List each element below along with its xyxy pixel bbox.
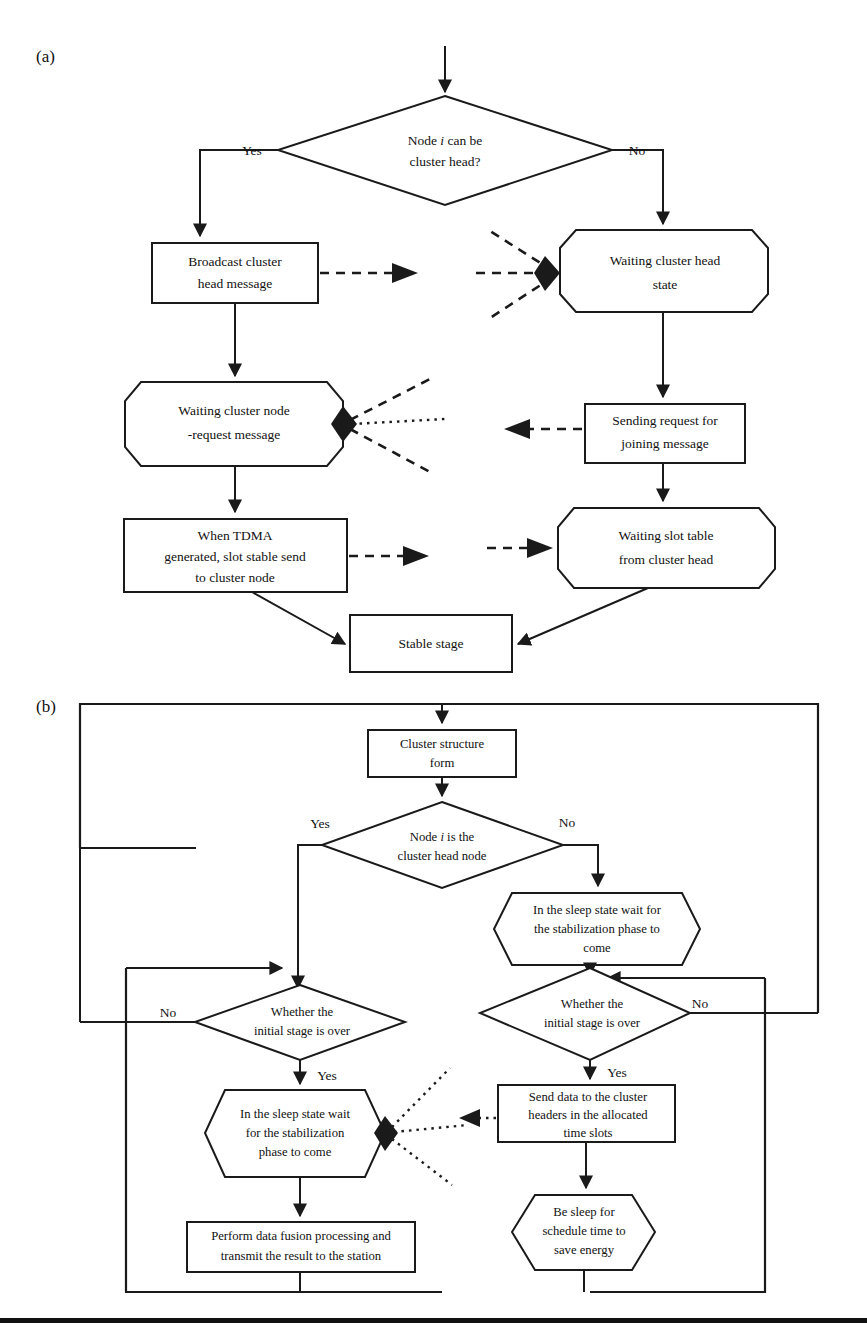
sending-request-line2: joining message [620,436,708,451]
sleep-right-line2: the stabilization phase to [534,922,660,936]
panel-b-label: (b) [36,697,56,716]
edge-dashed-fan-b3 [350,429,430,472]
be-sleep-line1: Be sleep for [553,1205,615,1219]
decision-left-line2: initial stage is over [254,1024,351,1038]
cluster-form-line2: form [430,756,455,770]
box-broadcast-cluster-head-message [152,243,318,303]
be-sleep-line3: save energy [554,1243,615,1257]
send-data-line3: time slots [564,1126,613,1140]
sleep-left-line1: In the sleep state wait [240,1107,350,1121]
broadcast-line2: head message [198,276,273,291]
waiting-node-line2: -request message [188,427,281,442]
edge-slot-table-to-stable-stage [518,588,648,644]
send-data-line2: headers in the allocated [528,1108,648,1122]
stable-stage-label: Stable stage [399,636,464,651]
edge-dashed-fan-b1 [350,379,430,420]
edge-dotted-fan-c2 [394,1125,468,1132]
decision-left-line1: Whether the [271,1005,334,1019]
decision-right-line1: Whether the [561,997,624,1011]
edge-label-yes-head-b: Yes [310,816,330,831]
edge-no-to-waiting-head [612,150,663,224]
arrowhead-dotted-send-data [459,1109,480,1127]
edge-tdma-to-stable-stage [252,592,345,644]
fusion-line1: Perform data fusion processing and [211,1229,391,1243]
edge-label-yes-right-b: Yes [607,1065,627,1080]
decision-whether-initial-stage-left [195,985,405,1060]
broadcast-line1: Broadcast cluster [188,254,282,269]
figure-canvas: Node i can be cluster head? Yes No Broad… [0,0,867,1335]
decision-node-is-cluster-head [322,802,563,888]
tdma-line2: generated, slot stable send [164,549,306,564]
decision-b-line1: Node i is the [410,830,475,844]
bottom-rule [0,1318,867,1323]
edge-dotted-fan-c3 [392,1139,452,1185]
decision-a-line2: cluster head? [410,154,481,169]
octagon-waiting-cluster-node-request [125,382,343,466]
send-data-line1: Send data to the cluster [529,1090,648,1104]
arrowhead-dashed-slot-table [527,538,553,558]
decision-a-line1: Node i can be [408,133,483,148]
edge-label-yes-left-b: Yes [317,1068,337,1083]
arrowhead-dashed-broadcast [392,263,418,283]
sleep-right-line3: come [583,941,611,955]
arrowhead-dashed-sending-request [504,419,530,439]
decision-right-line2: initial stage is over [544,1016,641,1030]
waiting-head-line2: state [653,277,678,292]
slot-table-line2: from cluster head [619,552,714,567]
waiting-head-line1: Waiting cluster head [610,253,721,268]
decision-b-line2: cluster head node [398,849,487,863]
octagon-waiting-slot-table [558,508,775,588]
decision-whether-initial-stage-right [480,968,690,1060]
edge-label-yes-a: Yes [242,143,262,158]
fusion-line2: transmit the result to the station [221,1249,382,1263]
edge-label-no-left-b: No [160,1005,177,1020]
edge-no-head-to-sleep [563,845,598,886]
edge-dotted-fan-c1 [392,1068,450,1127]
cluster-form-line1: Cluster structure [400,737,485,751]
tdma-line3: to cluster node [195,570,274,585]
edge-label-no-head-b: No [559,815,576,830]
sleep-left-line2: for the stabilization [246,1126,345,1140]
waiting-node-line1: Waiting cluster node [178,403,289,418]
edge-yes-head-down [298,845,322,988]
edge-label-no-a: No [629,143,646,158]
edge-label-no-right-b: No [692,996,709,1011]
sleep-right-line1: In the sleep state wait for [533,903,662,917]
arrowhead-dashed-tdma [403,546,429,566]
edge-yes-to-broadcast [200,150,278,236]
be-sleep-line2: schedule time to [542,1224,625,1238]
decision-node-can-be-cluster-head [278,96,612,205]
panel-a-label: (a) [36,47,55,66]
octagon-waiting-cluster-head-state [560,230,768,312]
edge-dotted-fan-b2 [352,419,445,424]
slot-table-line1: Waiting slot table [619,528,714,543]
tdma-line1: When TDMA [197,528,272,543]
sleep-left-line3: phase to come [259,1145,332,1159]
flowchart-svg: Node i can be cluster head? Yes No Broad… [0,0,867,1335]
sending-request-line1: Sending request for [612,413,718,428]
